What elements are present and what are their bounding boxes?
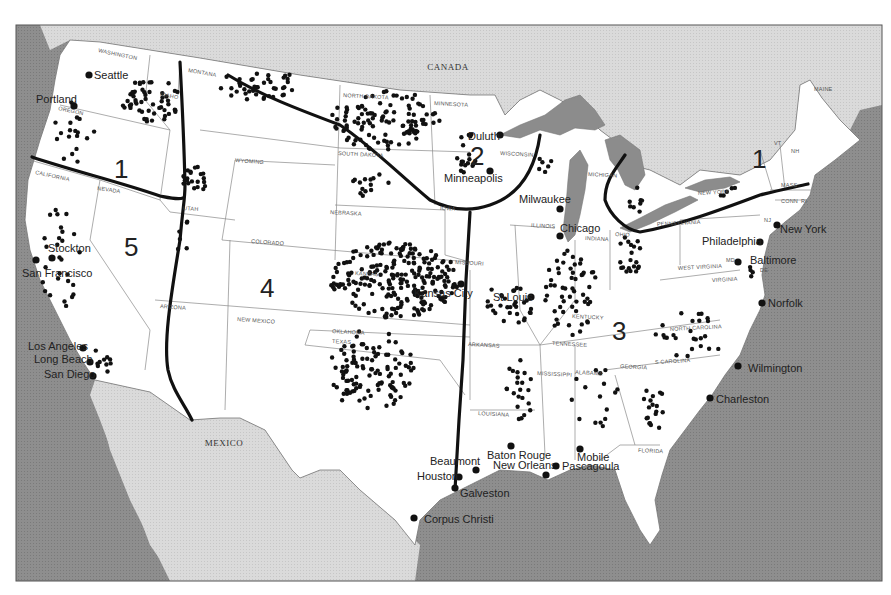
city-marker: Philadelphia [702,235,764,247]
city-label: Seattle [94,69,128,81]
city-label: New Orleans [493,459,557,471]
state-label: CONN [781,198,798,204]
state-label: DE [760,267,768,273]
state-label: IOWA [440,205,456,212]
city-dot-icon [85,71,92,78]
city-label: San Diego [44,368,95,380]
city-label: Stockton [48,242,91,254]
city-dot-icon [542,471,549,478]
city-marker: Galveston [451,484,509,499]
city-label: Charleston [716,393,769,405]
city-label: Corpus Christi [424,513,494,525]
city-label: Galveston [460,487,510,499]
city-label: Chicago [560,222,600,234]
city-marker: Houston [417,470,463,482]
region-number: 1 [114,154,128,184]
city-label: New York [780,223,827,235]
city-dot-icon [734,362,741,369]
city-marker: New York [773,221,827,235]
city-marker: Long Beach [34,353,94,366]
city-label: Long Beach [34,353,93,365]
state-label: RI [801,198,807,204]
city-label: Los Angeles [28,340,88,352]
state-label: MAINE [814,86,833,92]
city-dot-icon [758,299,765,306]
country-label: CANADA [427,62,469,72]
city-label: Mobile [577,451,609,463]
city-marker: Duluth [468,130,504,142]
region-number: 2 [470,141,484,171]
city-label: Baltimore [750,254,796,266]
state-label: VT [774,140,782,146]
city-label: Norfolk [768,297,803,309]
city-dot-icon [556,205,563,212]
state-label: ILLINOIS [531,222,556,229]
state-label: OHIO [615,231,631,238]
state-label: TEXAS [332,338,351,345]
city-label: Kansas City [414,287,473,299]
city-label: Duluth [468,130,500,142]
city-dot-icon [410,514,417,521]
city-dot-icon [472,466,479,473]
state-label: KANSAS [355,270,379,277]
city-label: Minneapolis [444,172,503,184]
city-label: Houston [417,470,458,482]
city-dot-icon [32,256,39,263]
region-number: 5 [124,232,138,262]
region-number: 4 [260,273,274,303]
city-dot-icon [706,394,713,401]
city-marker: San Diego [44,368,97,380]
state-label: NH [791,148,799,154]
state-label: NJ [764,217,771,223]
state-label: MASS [781,182,798,188]
city-dot-icon [48,254,55,261]
state-label: INDIANA [585,235,609,242]
region-number: 3 [612,316,626,346]
city-dot-icon [734,258,741,265]
city-dot-icon [552,462,559,469]
region-number: 1 [752,144,766,174]
country-label: MEXICO [205,438,244,448]
city-label: St Louis [493,291,533,303]
city-marker: St Louis [493,291,535,303]
city-dot-icon [451,484,458,491]
city-label: San Francisco [22,267,92,279]
city-label: Milwaukee [519,193,571,205]
city-marker: Los Angeles [28,340,88,352]
us-region-map: 121543 WASHINGTONOREGONIDAHOMONTANACALIF… [0,0,891,595]
city-label: Beaumont [430,455,480,467]
city-label: Portland [36,93,77,105]
state-label: MD [726,257,735,263]
city-marker: Charleston [706,393,769,405]
city-label: Philadelphia [702,235,763,247]
state-label: UTAH [183,205,199,212]
city-label: Wilmington [748,362,802,374]
